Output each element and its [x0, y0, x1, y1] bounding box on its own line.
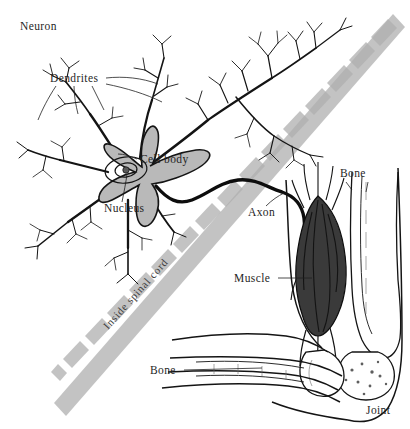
- neuron-muscle-diagram: Neuron Dendrites Cell body Nucleus Axon …: [0, 0, 410, 429]
- neuron-label: Neuron: [20, 20, 57, 32]
- bone-lower-label: Bone: [150, 364, 176, 376]
- joint-label: Joint: [366, 404, 391, 416]
- label-neuron: Neuron: [20, 20, 57, 32]
- muscle-label: Muscle: [234, 272, 270, 284]
- nucleus-label: Nucleus: [104, 202, 145, 214]
- diagram-canvas: Neuron Dendrites Cell body Nucleus Axon …: [0, 0, 410, 429]
- axon-label: Axon: [248, 206, 275, 218]
- label-joint: Joint: [366, 404, 391, 416]
- dendrites-label: Dendrites: [50, 72, 98, 84]
- cell-body-label: Cell body: [140, 153, 189, 166]
- bone-upper-label: Bone: [340, 167, 366, 179]
